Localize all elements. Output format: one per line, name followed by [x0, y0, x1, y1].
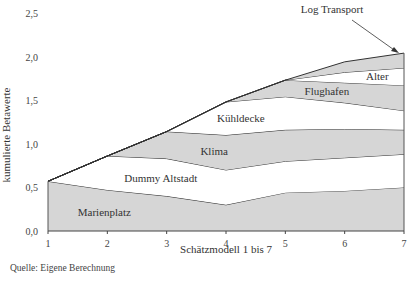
arrowhead-icon	[391, 47, 399, 53]
series-label: Klima	[200, 145, 228, 157]
series-label: Flughafen	[305, 85, 350, 97]
y-tick-label: 2,5	[26, 8, 39, 19]
series-label: Dummy Altstadt	[124, 172, 197, 184]
annotation-arrow	[352, 20, 397, 52]
series-label: Marienplatz	[78, 206, 131, 218]
x-axis-title: Schätzmodell 1 bis 7	[180, 243, 272, 255]
series-label: Kühldecke	[217, 112, 265, 124]
y-tick-label: 0,5	[26, 182, 39, 193]
x-tick-label: 6	[342, 238, 347, 249]
y-tick-label: 1,0	[26, 139, 39, 150]
x-tick-label: 3	[164, 238, 169, 249]
y-tick-label: 1,5	[26, 95, 39, 106]
x-tick-label: 2	[105, 238, 110, 249]
area-layers	[48, 53, 404, 231]
series-label: Alter	[366, 70, 389, 82]
annotation-label: Log Transport	[301, 3, 364, 15]
y-tick-label: 2,0	[26, 52, 39, 63]
x-tick-label: 7	[402, 238, 407, 249]
x-tick-label: 1	[46, 238, 51, 249]
x-tick-label: 5	[283, 238, 288, 249]
y-tick-label: 0,0	[26, 226, 39, 237]
source-note: Quelle: Eigene Berechnung	[10, 263, 115, 273]
y-axis-title: kumulierte Betawerte	[0, 87, 12, 182]
stacked-area-chart: 12345670,00,51,01,52,02,5 MarienplatzDum…	[0, 0, 416, 260]
